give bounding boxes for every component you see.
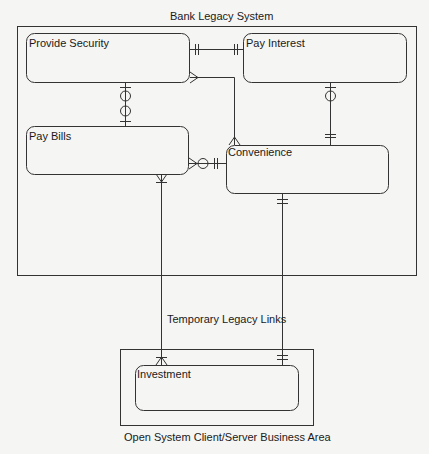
entity-pay-interest-name: Pay Interest xyxy=(246,37,305,49)
entity-pay-bills-name: Pay Bills xyxy=(29,130,71,142)
rel-security-interest xyxy=(190,44,243,55)
entity-provide-security-name: Provide Security xyxy=(29,37,109,49)
open-system-boundary xyxy=(121,350,314,426)
rel-convenience-investment xyxy=(277,193,288,365)
rel-security-convenience xyxy=(190,72,240,145)
legacy-system-boundary xyxy=(18,27,417,276)
rel-paybills-investment xyxy=(156,174,167,365)
open-system-title: Open System Client/Server Business Area xyxy=(124,431,331,443)
rel-security-paybills xyxy=(120,82,131,126)
entity-investment-name: Investment xyxy=(137,368,191,380)
rel-paybills-convenience xyxy=(189,158,226,169)
er-diagram-canvas xyxy=(0,0,429,454)
temporary-links-label: Temporary Legacy Links xyxy=(167,313,286,325)
rel-interest-convenience xyxy=(325,82,336,145)
entity-convenience-name: Convenience xyxy=(228,146,292,158)
legacy-system-title: Bank Legacy System xyxy=(170,10,273,22)
